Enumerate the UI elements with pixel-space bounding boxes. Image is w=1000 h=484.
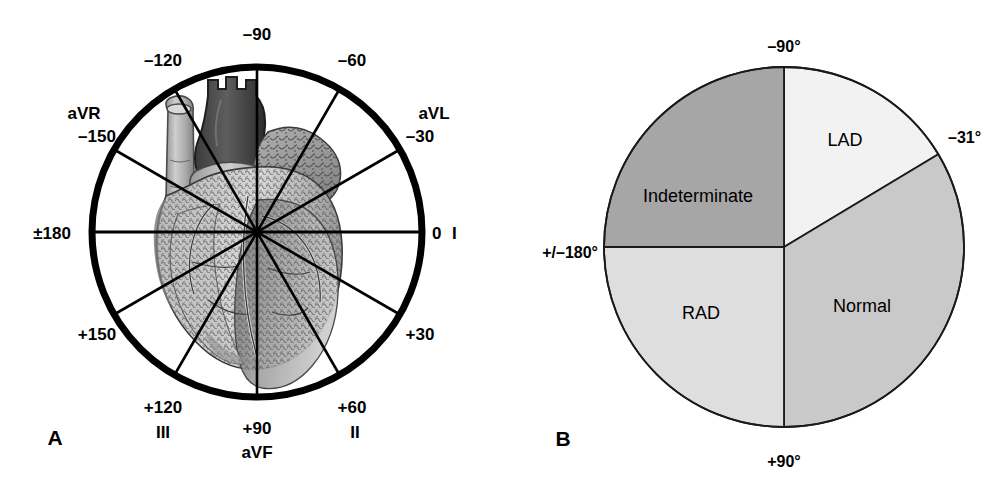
- degree-label--90: –90: [243, 25, 271, 44]
- b-degree-label-+90: +90°: [767, 453, 801, 470]
- slice-label-lad: LAD: [827, 130, 862, 150]
- degree-label-180: ±180: [33, 224, 71, 243]
- degree-label-+30: +30: [406, 325, 435, 344]
- panel-letter-a: A: [47, 426, 62, 449]
- lead-label-avr: aVR: [67, 104, 100, 123]
- b-degree-label-180: +/–180°: [542, 244, 598, 261]
- degree-label--120: –120: [144, 51, 182, 70]
- lead-label-i: I: [452, 224, 457, 243]
- slice-label-indeterminate: Indeterminate: [643, 186, 753, 206]
- degree-label-+120: +120: [144, 398, 182, 417]
- panel-a-svg: –90 –120 –150 ±180 +150 +120 +90 +60 +30…: [0, 0, 500, 484]
- b-degree-label--90: –90°: [767, 38, 800, 55]
- lead-label-ii: II: [350, 423, 359, 442]
- lead-label-avl: aVL: [418, 104, 449, 123]
- figure-root: –90 –120 –150 ±180 +150 +120 +90 +60 +30…: [0, 0, 1000, 484]
- degree-label-+90: +90: [243, 419, 272, 438]
- slice-label-normal: Normal: [833, 296, 891, 316]
- degree-label-+60: +60: [338, 398, 367, 417]
- degree-label-+150: +150: [78, 325, 116, 344]
- b-degree-label--31: –31°: [948, 129, 981, 146]
- degree-label--150: –150: [78, 127, 116, 146]
- lead-label-iii: III: [156, 423, 170, 442]
- pie-slice-rad[interactable]: [604, 247, 784, 427]
- panel-a-hexaxial: –90 –120 –150 ±180 +150 +120 +90 +60 +30…: [0, 0, 500, 484]
- degree-label--30: –30: [406, 127, 434, 146]
- degree-label-0: 0: [432, 224, 441, 243]
- panel-b-svg: LAD Normal RAD Indeterminate –90° –31° +…: [500, 0, 1000, 484]
- panel-letter-b: B: [555, 427, 570, 450]
- pie-slice-indeterminate[interactable]: [604, 67, 784, 247]
- slice-label-rad: RAD: [682, 303, 720, 323]
- degree-label--60: –60: [338, 51, 366, 70]
- lead-label-avf: aVF: [241, 443, 272, 462]
- panel-b-quadrants: LAD Normal RAD Indeterminate –90° –31° +…: [500, 0, 1000, 484]
